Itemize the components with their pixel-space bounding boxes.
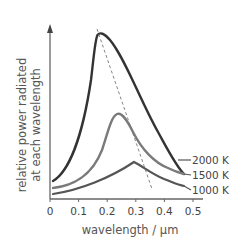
legend-1000k: 1000 K [192, 184, 230, 196]
y-axis-title: relative power radiated at each waveleng… [15, 58, 43, 192]
y-axis-arrow-icon [47, 24, 53, 33]
legend-1500k: 1500 K [192, 169, 230, 181]
y-axis-title-line1: relative power radiated [15, 58, 29, 192]
y-axis [47, 24, 53, 199]
x-tick-0.1: 0.1 [70, 205, 87, 217]
y-axis-title-line2: at each wavelength [29, 68, 43, 182]
wien-dashed-line [97, 29, 152, 189]
x-tick-0.3: 0.3 [127, 205, 144, 217]
x-axis-title: wavelength / µm [82, 223, 179, 237]
x-tick-0.2: 0.2 [99, 205, 116, 217]
x-axis [50, 199, 203, 202]
x-tick-0.4: 0.4 [156, 205, 173, 217]
x-tick-0.5: 0.5 [185, 205, 202, 217]
legend: 2000 K 1500 K 1000 K [178, 154, 230, 196]
x-tick-0: 0 [47, 205, 54, 217]
blackbody-radiation-chart: 0 0.1 0.2 0.3 0.4 0.5 wavelength / µm re… [0, 0, 239, 248]
legend-2000k: 2000 K [192, 154, 230, 166]
curve-2000k [53, 33, 184, 181]
